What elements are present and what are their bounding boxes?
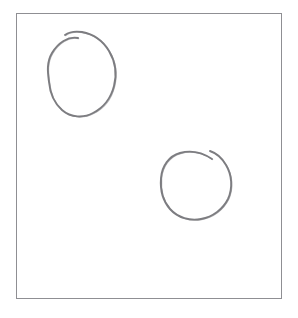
drawing-frame — [16, 13, 282, 299]
sketch-canvas-root — [0, 0, 298, 318]
